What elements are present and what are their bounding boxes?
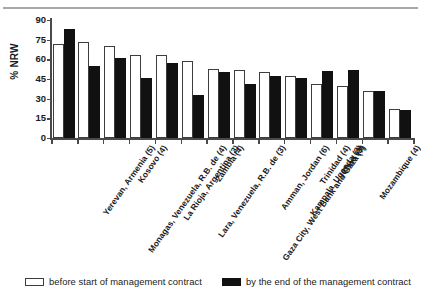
bar-after[interactable] [193,95,204,138]
x-axis-category-label: Yerevan, Armenia (5) [101,143,157,217]
bar-before[interactable] [337,86,348,138]
bar-before[interactable] [130,55,141,138]
y-axis-tick-mark [47,99,51,100]
plot-region: % NRW 9075604530150 [0,0,421,145]
bar-before[interactable] [104,46,115,138]
bar-group[interactable] [208,20,234,138]
bar-before[interactable] [234,70,245,138]
bar-after[interactable] [374,91,385,138]
bar-before[interactable] [363,91,374,138]
bar-group[interactable] [130,20,156,138]
y-axis-tick-mark [47,59,51,60]
bar-before[interactable] [156,55,167,138]
bar-group[interactable] [78,20,104,138]
bar-group[interactable] [53,20,79,138]
bar-before[interactable] [389,109,400,138]
chart-legend: before start of management contract by t… [0,276,421,296]
y-axis-tick-labels: 9075604530150 [24,20,46,138]
bar-after[interactable] [141,78,152,138]
bar-group[interactable] [311,20,337,138]
bar-after[interactable] [296,78,307,138]
y-axis-tick-mark [47,79,51,80]
bar-after[interactable] [167,63,178,138]
y-axis-tick-mark [47,40,51,41]
legend-item-after: by the end of the management contract [222,276,411,287]
bar-before[interactable] [208,69,219,138]
legend-item-before: before start of management contract [25,276,202,287]
bar-group[interactable] [182,20,208,138]
bar-before[interactable] [259,72,270,138]
bar-before[interactable] [285,76,296,138]
bar-group[interactable] [104,20,130,138]
bar-group[interactable] [234,20,260,138]
y-axis-tick-mark [47,118,51,119]
x-axis-category-labels: Yerevan, Armenia (5)Monagas, Venezuela, … [0,143,421,255]
bar-after[interactable] [89,66,100,138]
legend-swatch-after-icon [222,278,241,286]
y-axis-tick-mark [47,20,51,21]
bar-after[interactable] [348,70,359,138]
bar-group[interactable] [337,20,363,138]
bar-before[interactable] [53,44,64,138]
bar-before[interactable] [78,42,89,138]
y-axis-title: % NRW [9,32,20,92]
legend-swatch-before-icon [25,278,44,286]
bar-after[interactable] [115,58,126,138]
bar-after[interactable] [400,110,411,138]
bar-group[interactable] [363,20,389,138]
bar-after[interactable] [219,72,230,138]
bar-after[interactable] [322,71,333,138]
bar-after[interactable] [245,84,256,138]
legend-label-after: by the end of the management contract [246,276,411,287]
bar-after[interactable] [270,76,281,138]
bar-group[interactable] [389,20,415,138]
bar-group[interactable] [156,20,182,138]
bar-before[interactable] [311,84,322,138]
bar-before[interactable] [182,61,193,138]
bar-group[interactable] [285,20,311,138]
legend-label-before: before start of management contract [49,276,202,287]
bars-container [52,20,414,138]
bar-group[interactable] [259,20,285,138]
chart-figure: % NRW 9075604530150 Yerevan, Armenia (5)… [0,0,421,304]
bar-after[interactable] [64,29,75,138]
x-axis-category-label: Mozambique (4) [377,143,421,201]
